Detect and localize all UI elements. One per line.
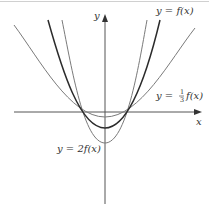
x-axis-arrow-icon [194, 109, 202, 115]
y-axis [102, 14, 108, 204]
svg-text:y =: y = [155, 90, 173, 101]
svg-text:1: 1 [180, 88, 184, 96]
label-one-third-f: y = 1 3 f(x) [155, 88, 203, 104]
label-f: y = f(x) [155, 5, 194, 16]
y-axis-arrow-icon [102, 14, 108, 22]
x-axis [14, 109, 202, 115]
svg-text:3: 3 [180, 96, 184, 104]
x-axis-label: x [196, 116, 202, 127]
label-two-f: y = 2f(x) [56, 143, 101, 154]
svg-text:f(x): f(x) [185, 90, 203, 101]
y-axis-label: y [93, 10, 100, 21]
function-transformation-diagram: x y y = f(x) y = 1 3 f(x) y = 2f(x) [0, 0, 209, 210]
